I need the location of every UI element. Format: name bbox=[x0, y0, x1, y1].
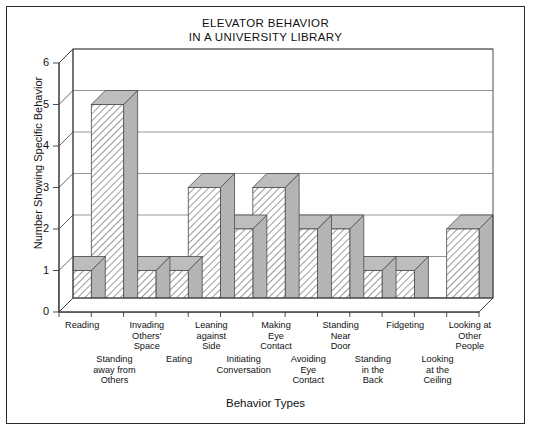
x-tick-label-4: Leaning against Side bbox=[180, 320, 242, 352]
x-tick-label-12: Looking at Other People bbox=[439, 320, 501, 352]
x-tick-label-1: Standing away from Others bbox=[83, 354, 145, 386]
chart-frame: ELEVATOR BEHAVIOR IN A UNIVERSITY LIBRAR… bbox=[6, 6, 525, 424]
y-tick-label-4: 4 bbox=[23, 139, 49, 151]
y-tick-label-2: 2 bbox=[23, 222, 49, 234]
bar-12 bbox=[447, 215, 493, 312]
y-tick-label-5: 5 bbox=[23, 98, 49, 110]
x-tick-label-2: Invading Others' Space bbox=[116, 320, 178, 352]
x-tick-label-6: Making Eye Contact bbox=[245, 320, 307, 352]
x-tick-label-0: Reading bbox=[51, 320, 113, 331]
x-tick-label-11: Looking at the Ceiling bbox=[407, 354, 469, 386]
y-tick-label-3: 3 bbox=[23, 181, 49, 193]
x-tick-label-3: Eating bbox=[148, 354, 210, 365]
x-tick-label-8: Standing Near Door bbox=[310, 320, 372, 352]
y-tick-label-0: 0 bbox=[23, 305, 49, 317]
x-tick-label-10: Fidgeting bbox=[374, 320, 436, 331]
y-tick-label-6: 6 bbox=[23, 56, 49, 68]
x-tick-label-7: Avoiding Eye Contact bbox=[277, 354, 339, 386]
y-tick-label-1: 1 bbox=[23, 264, 49, 276]
x-tick-label-9: Standing in the Back bbox=[342, 354, 404, 386]
x-tick-label-5: Initiating Conversation bbox=[213, 354, 275, 375]
